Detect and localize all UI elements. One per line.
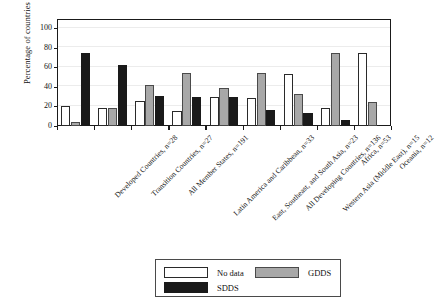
legend-label: GDDS (308, 268, 331, 278)
bar (368, 102, 377, 126)
legend-label: SDDS (217, 283, 239, 293)
legend-item: SDDS (164, 281, 239, 294)
y-axis-tick-label: 0 (48, 121, 52, 130)
bar (81, 53, 90, 126)
x-axis-tick-mark (317, 126, 318, 130)
x-axis-label: Africa, n=53 (359, 133, 393, 167)
x-axis-tick-mark (243, 126, 244, 130)
bar (135, 101, 144, 126)
x-axis-tick-mark (94, 126, 95, 130)
bar (284, 74, 293, 126)
x-axis-tick-mark (205, 126, 206, 130)
bar (331, 53, 340, 126)
bar (192, 97, 201, 126)
bars-layer (57, 19, 391, 126)
x-axis-label: Oceania, n=12 (398, 133, 436, 171)
bar-group (172, 19, 201, 126)
y-axis-tick-label: 20 (44, 101, 52, 110)
bar-group (358, 19, 387, 126)
bar (303, 113, 312, 126)
bar (294, 94, 303, 126)
legend-swatch (164, 267, 208, 278)
bar (210, 97, 219, 126)
bar-group (210, 19, 239, 126)
bar (118, 65, 127, 126)
x-axis-label: Transition Countries, n=27 (149, 133, 214, 198)
x-axis-ticks (57, 126, 391, 130)
legend-item: No data (164, 266, 244, 279)
y-axis-tick-label: 60 (44, 62, 52, 71)
y-axis-tick-label: 40 (44, 82, 52, 91)
legend-label: No data (217, 268, 244, 278)
bar (257, 73, 266, 127)
x-axis-label: All Member States, n=191 (186, 133, 250, 197)
bar-group (321, 19, 350, 126)
x-axis-tick-mark (131, 126, 132, 130)
bar (321, 108, 330, 126)
x-axis-label: Western Asia (Middle East), n=15 (341, 133, 422, 214)
x-axis-tick-mark (391, 126, 392, 130)
bar (229, 97, 238, 126)
x-axis-label: Latin America and Caribbean, n=33 (231, 133, 316, 218)
bar-group (135, 19, 164, 126)
x-axis-tick-mark (168, 126, 169, 130)
bar (145, 85, 154, 126)
bar-group (247, 19, 276, 126)
bar (266, 110, 275, 126)
x-axis-tick-mark (354, 126, 355, 130)
bar-group (61, 19, 90, 126)
bar (358, 53, 367, 126)
bar-chart: Percentage of countries 020406080100 Dev… (0, 0, 436, 308)
bar (155, 96, 164, 126)
x-axis-tick-mark (57, 126, 58, 130)
y-axis-tick-label: 80 (44, 43, 52, 52)
x-axis-label: All Developing Countries, n=136 (303, 133, 382, 212)
bar (98, 108, 107, 126)
bar (219, 88, 228, 126)
y-axis-tick-label: 100 (40, 23, 52, 32)
legend-item: GDDS (255, 266, 331, 279)
x-axis-tick-mark (280, 126, 281, 130)
bar (172, 111, 181, 126)
bar (108, 108, 117, 126)
bar-group (284, 19, 313, 126)
x-axis-label: East, Southeast, and South Asia, n=23 (270, 133, 359, 222)
y-axis-title: Percentage of countries (22, 0, 32, 98)
bar-group (98, 19, 127, 126)
chart-legend: No dataGDDSSDDS (155, 259, 341, 297)
legend-swatch (164, 282, 208, 293)
bar (182, 73, 191, 127)
bar (247, 98, 256, 126)
legend-swatch (255, 267, 299, 278)
bar (61, 106, 70, 126)
x-axis-label: Developed Countries, n=28 (112, 133, 179, 200)
